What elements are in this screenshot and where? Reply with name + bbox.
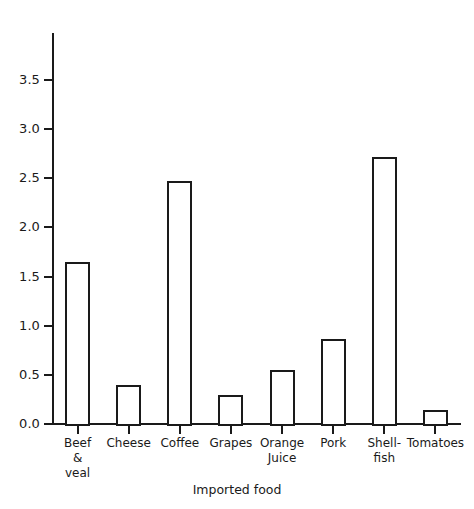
x-axis-tick [281,425,283,434]
x-axis-tick [77,425,79,434]
y-axis-tick [44,79,53,81]
y-axis-tick [44,177,53,179]
x-axis-title: Imported food [0,482,474,497]
bar [372,157,397,426]
y-axis-tick-label: 1.0 [0,319,40,332]
bar-chart: 0.00.51.01.52.02.53.03.5 Beef & vealChee… [0,0,474,509]
bar [321,339,346,426]
x-axis-tick [383,425,385,434]
y-axis-tick [44,325,53,327]
y-axis-tick-label: 2.0 [0,220,40,233]
y-axis-tick [44,128,53,130]
bar [65,262,90,426]
y-axis-line [52,33,54,425]
y-axis-tick [44,276,53,278]
bar [270,370,295,426]
y-axis-tick-label: 0.0 [0,417,40,430]
x-axis-tick-label: Tomatoes [390,436,474,451]
x-axis-tick [434,425,436,434]
y-axis-tick-label: 0.5 [0,368,40,381]
bar [167,181,192,426]
bar [218,395,243,426]
y-axis-tick-label: 3.5 [0,73,40,86]
y-axis-tick-label: 3.0 [0,122,40,135]
bar [423,410,448,426]
x-axis-tick [128,425,130,434]
x-axis-tick [332,425,334,434]
y-axis-tick [44,423,53,425]
y-axis-tick [44,374,53,376]
x-axis-line [52,423,461,425]
y-axis-tick [44,226,53,228]
clipped-header-artifact [0,0,474,6]
x-axis-tick [230,425,232,434]
x-axis-tick [179,425,181,434]
y-axis-tick-label: 1.5 [0,270,40,283]
y-axis-tick-label: 2.5 [0,171,40,184]
bar [116,385,141,426]
